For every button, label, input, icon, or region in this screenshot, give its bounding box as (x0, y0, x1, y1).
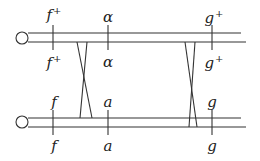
top-label-below-f: f+ (47, 54, 62, 71)
top-label-below-g: g+ (205, 54, 224, 71)
crossover-left-line-2 (80, 42, 87, 118)
top-label-below-alpha: α (103, 55, 113, 70)
bottom-label-below-g: g (207, 139, 217, 154)
crossover-right-line-2 (189, 42, 195, 127)
top-strand-origin-circle (16, 32, 28, 44)
bottom-label-below-f: f (51, 139, 57, 154)
crossover-right-line-1 (185, 42, 197, 127)
bottom-label-above-a: a (104, 95, 113, 110)
bottom-label-below-a: a (104, 139, 113, 154)
bottom-label-above-f: f (51, 95, 57, 110)
bottom-label-above-g: g (207, 95, 217, 110)
top-label-above-g: g+ (205, 9, 224, 26)
top-label-above-f: f+ (47, 6, 62, 23)
crossover-left-line-1 (77, 42, 92, 118)
top-label-above-alpha: α (103, 10, 113, 25)
bottom-strand-origin-circle (16, 116, 28, 128)
strand-diagram: f+ α g+ f+ α g+ f a g f a g (0, 0, 260, 161)
